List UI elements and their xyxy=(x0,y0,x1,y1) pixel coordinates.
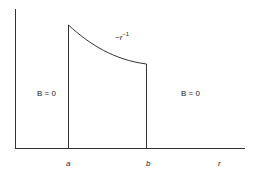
x-axis-label: r xyxy=(218,159,221,168)
inverse-r-curve xyxy=(69,25,147,64)
tick-label-b: b xyxy=(146,159,151,168)
curve-label: ~r−1 xyxy=(115,31,130,42)
tick-label-a: a xyxy=(66,159,71,168)
inner-region-label: B = 0 xyxy=(37,89,56,98)
field-diagram: B = 0 B = 0 ~r−1 a b r xyxy=(0,0,258,179)
outer-region-label: B = 0 xyxy=(181,89,200,98)
